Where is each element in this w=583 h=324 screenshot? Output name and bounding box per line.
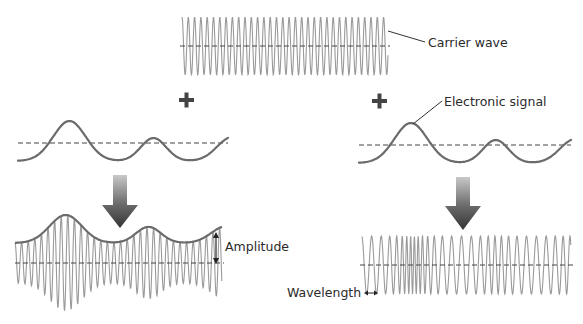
electronic-signal-label: Electronic signal bbox=[444, 94, 547, 109]
wavelength-label: Wavelength bbox=[287, 285, 361, 300]
right-electronic-signal: Electronic signal bbox=[359, 94, 571, 163]
amplitude-label: Amplitude bbox=[225, 239, 289, 254]
down-arrow-icon bbox=[102, 175, 138, 228]
plus-icon bbox=[179, 93, 194, 108]
modulation-diagram: Carrier wave Electronic signal bbox=[0, 0, 583, 324]
carrier-leader-line bbox=[388, 31, 425, 42]
down-arrow-icon bbox=[445, 177, 481, 230]
carrier-wave-label: Carrier wave bbox=[428, 35, 508, 50]
carrier-wave: Carrier wave bbox=[180, 17, 508, 75]
fm-wave: Wavelength bbox=[287, 236, 573, 300]
left-electronic-signal bbox=[18, 121, 228, 161]
plus-icon bbox=[372, 94, 387, 109]
signal-leader-line bbox=[413, 101, 442, 124]
am-wave: Amplitude bbox=[15, 215, 289, 311]
